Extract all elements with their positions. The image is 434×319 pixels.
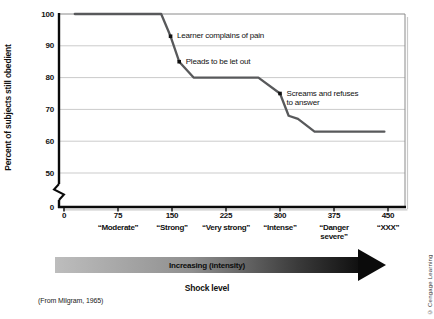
y-tick-label: 70 [24, 105, 54, 114]
annotation-marker [278, 92, 282, 96]
x-category-label: “XXX” [358, 223, 418, 232]
x-category-label: “Very strong” [196, 223, 256, 232]
y-axis-title: Percent of subjects still obedient [3, 8, 14, 208]
x-tick-label: 225 [206, 211, 246, 220]
y-axis-break [54, 184, 64, 200]
x-category-label: “Moderate” [88, 223, 148, 232]
x-tick-label: 450 [368, 211, 408, 220]
y-tick-label: 90 [24, 41, 54, 50]
x-axis-title: Shock level [55, 283, 359, 293]
annotation-text: Learner complains of pain [177, 31, 264, 41]
arrowhead-icon [358, 249, 386, 281]
copyright-credit: © Cengage Learning [427, 220, 433, 315]
y-tick-label: 50 [24, 169, 54, 178]
x-tick-label: 75 [98, 211, 138, 220]
milgram-obedience-figure: Percent of subjects still obedient 10090… [0, 0, 434, 319]
y-tick-label: 80 [24, 73, 54, 82]
x-category-label: “Danger severe” [304, 223, 364, 241]
x-tick-label: 375 [314, 211, 354, 220]
annotation-text: Pleads to be let out [186, 57, 251, 67]
annotation-marker [177, 60, 181, 64]
x-category-label: “Strong” [142, 223, 202, 232]
annotation-marker [169, 34, 173, 38]
source-note: (From Milgram, 1965) [38, 297, 103, 304]
x-tick-label: 150 [152, 211, 192, 220]
y-tick-label: 60 [24, 137, 54, 146]
x-tick-label: 300 [260, 211, 300, 220]
annotation-text: Screams and refuses to answer [287, 89, 359, 108]
y-tick-label: 100 [24, 10, 54, 19]
arrow-label: Increasing (intensity) [55, 261, 359, 270]
x-tick-label: 0 [44, 211, 84, 220]
x-category-label: “Intense” [250, 223, 310, 232]
